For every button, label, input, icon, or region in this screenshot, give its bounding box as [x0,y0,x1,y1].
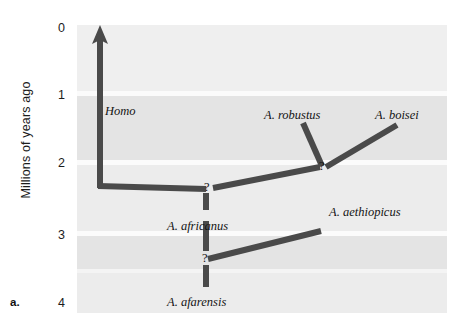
branch-node-to-robust [213,167,320,188]
uncertainty-marker-basal: ? [202,251,208,266]
panel-label: a. [10,296,20,308]
y-tick-3: 3 [58,228,65,242]
y-tick-2: 2 [58,156,65,170]
branch-homo-to-node [98,186,206,189]
y-axis-tick-labels: 0 1 2 3 4 [0,0,77,329]
taxon-label-aethiopicus: A. aethiopicus [329,205,401,220]
branch-aethiopicus [208,231,321,259]
taxon-label-boisei: A. boisei [375,108,419,123]
phylogeny-plot-area: Homo A. robustus A. boisei A. africanus … [77,25,447,313]
y-tick-0: 0 [58,21,65,35]
taxon-label-homo: Homo [105,104,136,119]
y-tick-4: 4 [58,296,65,310]
uncertainty-marker-robust: ? [319,159,325,174]
uncertainty-marker-central: ? [204,180,210,195]
taxon-label-robustus: A. robustus [264,108,321,123]
tree-branches [77,25,447,313]
figure-panel: Millions of years ago 0 1 2 3 4 a. [0,0,462,329]
taxon-label-afarensis: A. afarensis [167,295,226,310]
y-tick-1: 1 [58,88,65,102]
branch-boisei [326,125,397,167]
taxon-label-africanus: A. africanus [167,219,228,234]
